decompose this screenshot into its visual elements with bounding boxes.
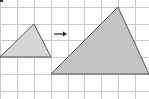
corner-label-mark	[0, 0, 3, 2]
grid-diagram	[0, 0, 149, 99]
right-arrow-icon	[54, 32, 67, 37]
